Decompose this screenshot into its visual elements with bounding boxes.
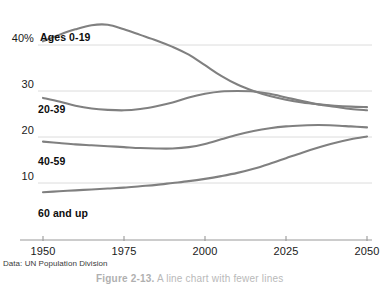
series-label-0: Ages 0-19 [40, 31, 91, 43]
x-axis-label-1950: 1950 [20, 245, 66, 257]
figure-caption: Figure 2-13. A line chart with fewer lin… [96, 273, 283, 284]
source-note: Data: UN Population Division [3, 259, 108, 268]
series-line-1 [43, 91, 367, 110]
series-label-3: 60 and up [38, 207, 88, 219]
series-label-1: 20-39 [38, 103, 65, 115]
x-axis-label-2050: 2050 [344, 245, 380, 257]
series-label-2: 40-59 [38, 155, 65, 167]
figure-caption-text: A line chart with fewer lines [157, 273, 283, 284]
y-axis-label-10: 10 [4, 170, 34, 182]
y-axis-label-30: 30 [4, 78, 34, 90]
x-axis-label-2000: 2000 [182, 245, 228, 257]
x-axis-label-2025: 2025 [263, 245, 309, 257]
y-axis-label-40: 40% [4, 32, 34, 44]
y-axis-label-20: 20 [4, 124, 34, 136]
series-lines [43, 24, 367, 192]
figure-caption-number: Figure 2-13. [96, 273, 155, 284]
x-axis-label-1975: 1975 [101, 245, 147, 257]
